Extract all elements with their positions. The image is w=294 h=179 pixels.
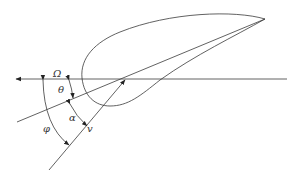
velocity-label: v xyxy=(87,123,93,134)
theta-arc xyxy=(69,80,73,98)
phi-label: φ xyxy=(43,123,50,134)
airfoil-angle-diagram: Ω θ α φ v xyxy=(0,0,294,179)
phi-arc xyxy=(43,80,69,145)
omega-label: Ω xyxy=(52,68,61,79)
theta-label: θ xyxy=(58,84,64,95)
alpha-label: α xyxy=(69,112,76,123)
airfoil-profile xyxy=(82,14,265,106)
